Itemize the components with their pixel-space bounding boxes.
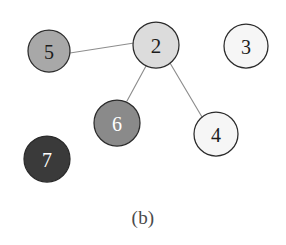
graph-node-4[interactable]: 4 xyxy=(194,112,238,156)
node-label-2: 2 xyxy=(151,34,162,58)
node-label-5: 5 xyxy=(44,41,54,63)
graph-edge-2-4 xyxy=(170,63,202,117)
node-label-6: 6 xyxy=(112,113,122,135)
graph-node-5[interactable]: 5 xyxy=(28,30,70,72)
graph-node-7[interactable]: 7 xyxy=(24,136,70,182)
graph-node-6[interactable]: 6 xyxy=(94,100,140,146)
node-label-4: 4 xyxy=(211,124,221,146)
node-label-7: 7 xyxy=(42,149,52,171)
graph-node-3[interactable]: 3 xyxy=(224,24,268,68)
graph-figure: 523647 (b) xyxy=(0,0,286,245)
node-label-3: 3 xyxy=(241,36,251,58)
graph-edge-2-6 xyxy=(127,66,146,101)
figure-caption: (b) xyxy=(0,207,286,229)
graph-node-2[interactable]: 2 xyxy=(133,22,179,68)
nodes-layer: 523647 xyxy=(24,22,268,182)
graph-edge-5-2 xyxy=(70,43,134,53)
